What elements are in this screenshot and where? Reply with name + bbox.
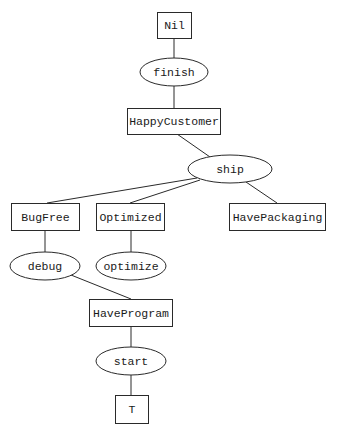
node-label: HappyCustomer <box>129 115 219 128</box>
node-label: finish <box>153 66 194 79</box>
node-label: BugFree <box>21 211 69 224</box>
node-label: HaveProgram <box>93 307 169 320</box>
node-optimized[interactable]: Optimized <box>97 204 165 231</box>
node-optimize[interactable]: optimize <box>96 252 166 280</box>
edge-ship-bugfree <box>47 178 197 203</box>
node-label: debug <box>28 260 63 273</box>
node-start[interactable]: start <box>96 347 166 375</box>
node-label: optimize <box>103 260 158 273</box>
node-label: Optimized <box>99 211 161 224</box>
node-nil[interactable]: Nil <box>158 13 192 39</box>
node-label: T <box>129 403 136 416</box>
node-t[interactable]: T <box>116 396 149 424</box>
plan-diagram: Nil finish HappyCustomer ship BugFree Op… <box>0 0 340 438</box>
node-happycustomer[interactable]: HappyCustomer <box>128 109 221 135</box>
node-label: start <box>114 355 149 368</box>
edge-ship-havepackaging <box>246 182 277 203</box>
node-bugfree[interactable]: BugFree <box>12 204 80 231</box>
node-finish[interactable]: finish <box>140 58 208 86</box>
node-ship[interactable]: ship <box>188 155 272 183</box>
edge-happycustomer-ship <box>177 134 210 157</box>
node-label: Nil <box>164 19 185 32</box>
node-debug[interactable]: debug <box>10 252 80 280</box>
node-label: HavePackaging <box>233 211 323 224</box>
node-label: ship <box>216 163 244 176</box>
node-haveprogram[interactable]: HaveProgram <box>90 300 173 327</box>
node-havepackaging[interactable]: HavePackaging <box>230 204 326 231</box>
